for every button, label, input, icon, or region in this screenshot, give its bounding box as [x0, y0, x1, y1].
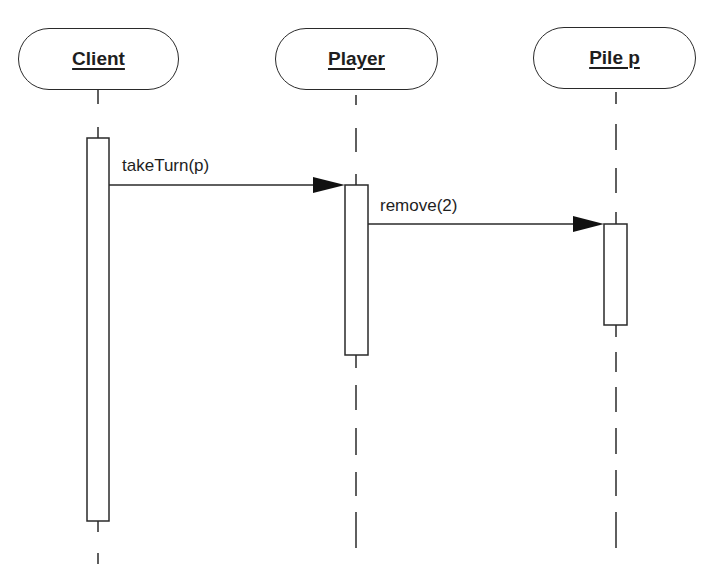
actor-player: Player — [275, 28, 438, 90]
activation-player — [345, 185, 368, 355]
arrowhead-icon — [573, 216, 604, 232]
message-label-remove: remove(2) — [380, 196, 457, 216]
actor-label: Client — [72, 48, 125, 70]
actor-label: Pile p — [589, 47, 640, 69]
message-arrow-remove — [368, 216, 604, 232]
activation-pile — [604, 224, 627, 325]
message-label-taketurn: takeTurn(p) — [122, 156, 209, 176]
arrowhead-icon — [313, 177, 345, 193]
actor-pile: Pile p — [533, 27, 696, 89]
actor-client: Client — [18, 28, 179, 90]
message-arrow-taketurn — [109, 177, 345, 193]
sequence-diagram: Client Player Pile p takeTurn(p) remove(… — [0, 0, 705, 564]
activation-client — [87, 138, 109, 521]
actor-label: Player — [328, 48, 385, 70]
